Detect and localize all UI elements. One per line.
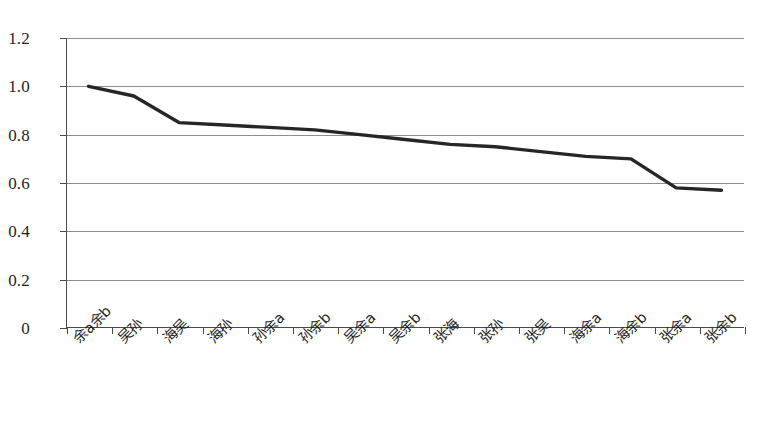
line-chart: 00.20.40.60.81.01.2 余a余b吴孙海吴海孙孙余a孙余b吴余a吴… (0, 0, 772, 428)
y-axis-tick-label: 0.6 (8, 175, 30, 192)
x-axis-tick (745, 327, 746, 334)
y-axis-tick-label: 1.0 (8, 78, 30, 95)
y-axis-tick-label: 1.2 (8, 30, 30, 47)
y-axis-tick-label: 0.2 (8, 272, 30, 289)
x-axis-labels: 余a余b吴孙海吴海孙孙余a孙余b吴余a吴余b张海张孙张吴海余a海余b张余a张余b (66, 330, 744, 426)
y-axis-tick-label: 0.4 (8, 223, 30, 240)
y-axis-tick-label: 0 (21, 320, 30, 337)
y-axis-tick (60, 328, 67, 329)
series-path (89, 86, 722, 190)
y-axis-tick-label: 0.8 (8, 127, 30, 144)
series-line (66, 38, 744, 328)
